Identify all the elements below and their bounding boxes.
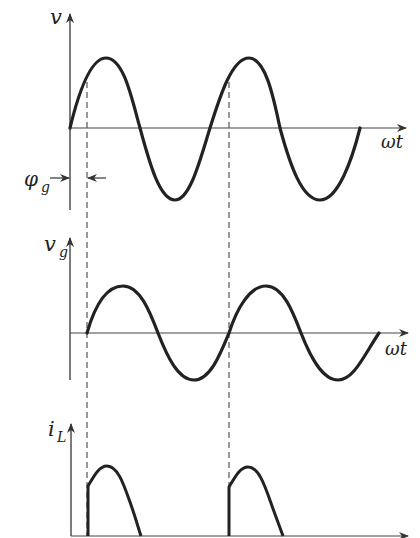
svg-text:g: g — [41, 179, 50, 195]
firing-angle-lines — [87, 82, 229, 536]
current-pulse-1 — [88, 466, 141, 536]
current-pulse-2 — [229, 467, 283, 536]
phase-annotation: φ g — [24, 167, 106, 195]
y-axis-label-sub: L — [56, 429, 66, 445]
y-axis-label: v — [44, 232, 56, 256]
x-axis-label: ωt — [385, 338, 408, 359]
x-axis-label: ωt — [381, 131, 404, 152]
svg-text:φ: φ — [24, 167, 38, 191]
y-axis-label: i — [48, 417, 55, 441]
y-axis-label: v — [50, 5, 62, 29]
waveform-diagram: v ωt φ g v g ωt i L — [0, 0, 420, 538]
sine-curve — [70, 58, 360, 200]
panel-supply-voltage: v ωt φ g — [24, 5, 406, 210]
panel-load-current: i L — [48, 417, 408, 536]
y-axis-label-sub: g — [59, 244, 68, 260]
panel-gate-voltage: v g ωt — [44, 232, 408, 380]
